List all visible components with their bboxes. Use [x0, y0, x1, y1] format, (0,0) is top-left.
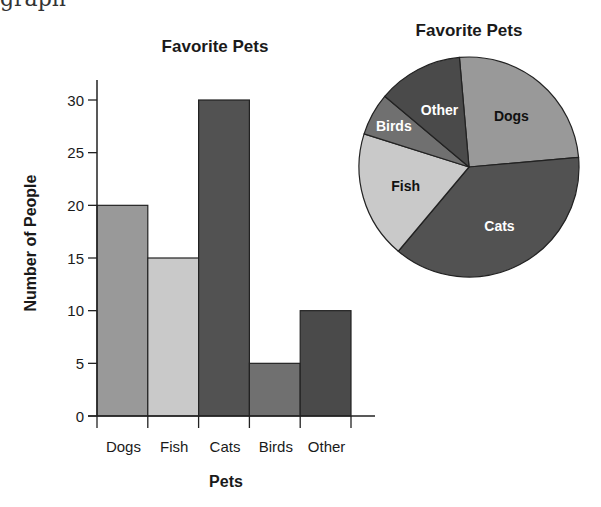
y-tick-label: 10: [67, 302, 84, 319]
pie-label-fish: Fish: [391, 178, 420, 194]
pie-label-birds: Birds: [376, 118, 412, 134]
pie-slices: DogsCatsFishBirdsOther: [359, 57, 579, 277]
pie-label-dogs: Dogs: [494, 108, 529, 124]
y-tick-label: 5: [76, 355, 84, 372]
bar-other: [300, 311, 351, 416]
chart-figure: graph Favorite Pets 051015202530 Number …: [0, 0, 601, 507]
x-tick-label-other: Other: [308, 438, 346, 455]
bar-birds: [249, 363, 300, 416]
y-axis-label: Number of People: [22, 174, 39, 311]
x-tick-label-birds: Birds: [259, 438, 293, 455]
x-tick-label-dogs: Dogs: [106, 438, 141, 455]
bar-cats: [199, 100, 250, 416]
pie-label-cats: Cats: [484, 218, 515, 234]
bar-chart: Favorite Pets 051015202530 Number of Peo…: [22, 37, 375, 490]
y-tick-label: 20: [67, 197, 84, 214]
chart-canvas: Favorite Pets 051015202530 Number of Peo…: [0, 0, 601, 507]
y-tick-label: 15: [67, 250, 84, 267]
x-axis-label: Pets: [209, 473, 243, 490]
pie-chart: Favorite Pets DogsCatsFishBirdsOther: [359, 21, 579, 277]
y-tick-label: 25: [67, 144, 84, 161]
x-tick-label-cats: Cats: [210, 438, 241, 455]
bar-fish: [148, 258, 199, 416]
y-tick-label: 30: [67, 92, 84, 109]
bar-dogs: [97, 205, 148, 416]
bar-series: [97, 100, 351, 416]
x-tick-label-fish: Fish: [160, 438, 188, 455]
y-tick-label: 0: [76, 408, 84, 425]
cut-off-text: graph: [0, 0, 66, 11]
bar-chart-title: Favorite Pets: [162, 37, 269, 56]
x-axis-ticks: DogsFishCatsBirdsOther: [97, 416, 351, 455]
pie-label-other: Other: [421, 102, 459, 118]
pie-chart-title: Favorite Pets: [416, 21, 523, 40]
y-axis-ticks: 051015202530: [67, 92, 97, 425]
